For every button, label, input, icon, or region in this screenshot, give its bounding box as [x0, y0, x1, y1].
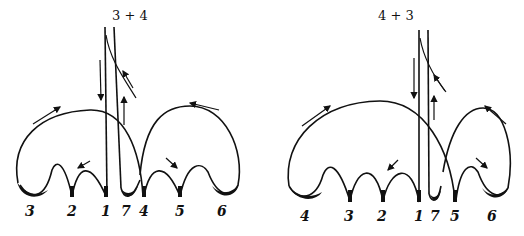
arch-4-5 — [144, 171, 180, 196]
pole-label: 3 — [344, 208, 354, 224]
pole-label: 3 — [25, 203, 35, 219]
pole-label: 7 — [121, 203, 131, 219]
pole-label: 2 — [66, 203, 77, 219]
lead-wire-branch — [106, 35, 136, 98]
pole-label: 6 — [217, 203, 227, 219]
pole-label: 2 — [376, 208, 387, 224]
arrow-diag-icon — [434, 75, 445, 91]
arrow-loop-icon — [485, 106, 506, 124]
arch-5-6 — [180, 166, 238, 196]
pole-label: 4 — [139, 203, 149, 219]
arrow-loop-icon — [302, 106, 330, 126]
arrow-down-icon — [100, 60, 101, 100]
pole-2 — [70, 186, 74, 197]
winding-loop-4-5 — [288, 101, 455, 200]
pole-1 — [104, 186, 108, 197]
arrow-arch-icon — [78, 161, 90, 168]
arch-3-2 — [350, 173, 383, 201]
lead-wire-down — [105, 27, 107, 196]
winding-loop-7-6 — [443, 108, 510, 188]
winding-diagram-canvas: 3 + 4 3 2 1 7 — [0, 0, 524, 236]
lead-wire-up — [114, 27, 121, 188]
arrow-arch-icon — [476, 158, 487, 168]
arch-3-2 — [20, 164, 72, 196]
diagram-right-title: 4 + 3 — [378, 8, 414, 23]
arch-2-1 — [383, 173, 419, 202]
diagram-right: 4 + 3 4 3 2 1 7 5 — [288, 8, 510, 224]
arch-2-1 — [72, 171, 106, 196]
winding-loop-7-6 — [140, 106, 239, 185]
pole-label: 6 — [487, 208, 497, 224]
pole-label: 5 — [450, 208, 460, 224]
pole-1 — [417, 190, 421, 202]
pole-4 — [142, 186, 146, 197]
pole-5 — [453, 190, 457, 202]
pole-label: 4 — [300, 208, 310, 224]
pole-label: 5 — [175, 203, 185, 219]
pole-3 — [348, 190, 352, 202]
arrow-arch-icon — [388, 160, 398, 170]
pole-label: 1 — [101, 203, 111, 219]
pole-2 — [381, 190, 385, 202]
pole-5 — [178, 186, 182, 197]
lead-wire-up — [428, 30, 429, 194]
arrow-arch-icon — [166, 158, 177, 168]
diagram-left-title: 3 + 4 — [112, 8, 148, 23]
diagram-left: 3 + 4 3 2 1 7 — [17, 8, 240, 219]
lead-wire-branch — [420, 38, 446, 92]
pole-label: 7 — [430, 208, 440, 224]
pole-label: 1 — [414, 208, 424, 224]
